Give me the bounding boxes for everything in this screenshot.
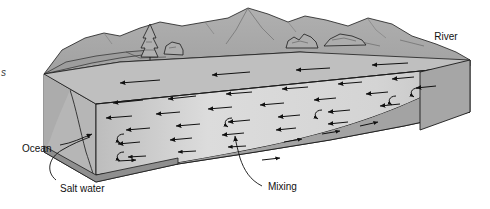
label-cut-off-left: s — [1, 67, 6, 78]
label-mixing: Mixing — [268, 181, 297, 192]
estuary-block-diagram: River Ocean Salt water Mixing s — [0, 0, 490, 209]
figure-canvas: River Ocean Salt water Mixing s — [0, 0, 490, 209]
label-salt-water: Salt water — [60, 183, 105, 194]
label-river: River — [434, 31, 458, 42]
block-right-end-face — [420, 60, 470, 130]
flow-arrow-reverse — [262, 158, 280, 160]
label-ocean: Ocean — [22, 143, 51, 154]
